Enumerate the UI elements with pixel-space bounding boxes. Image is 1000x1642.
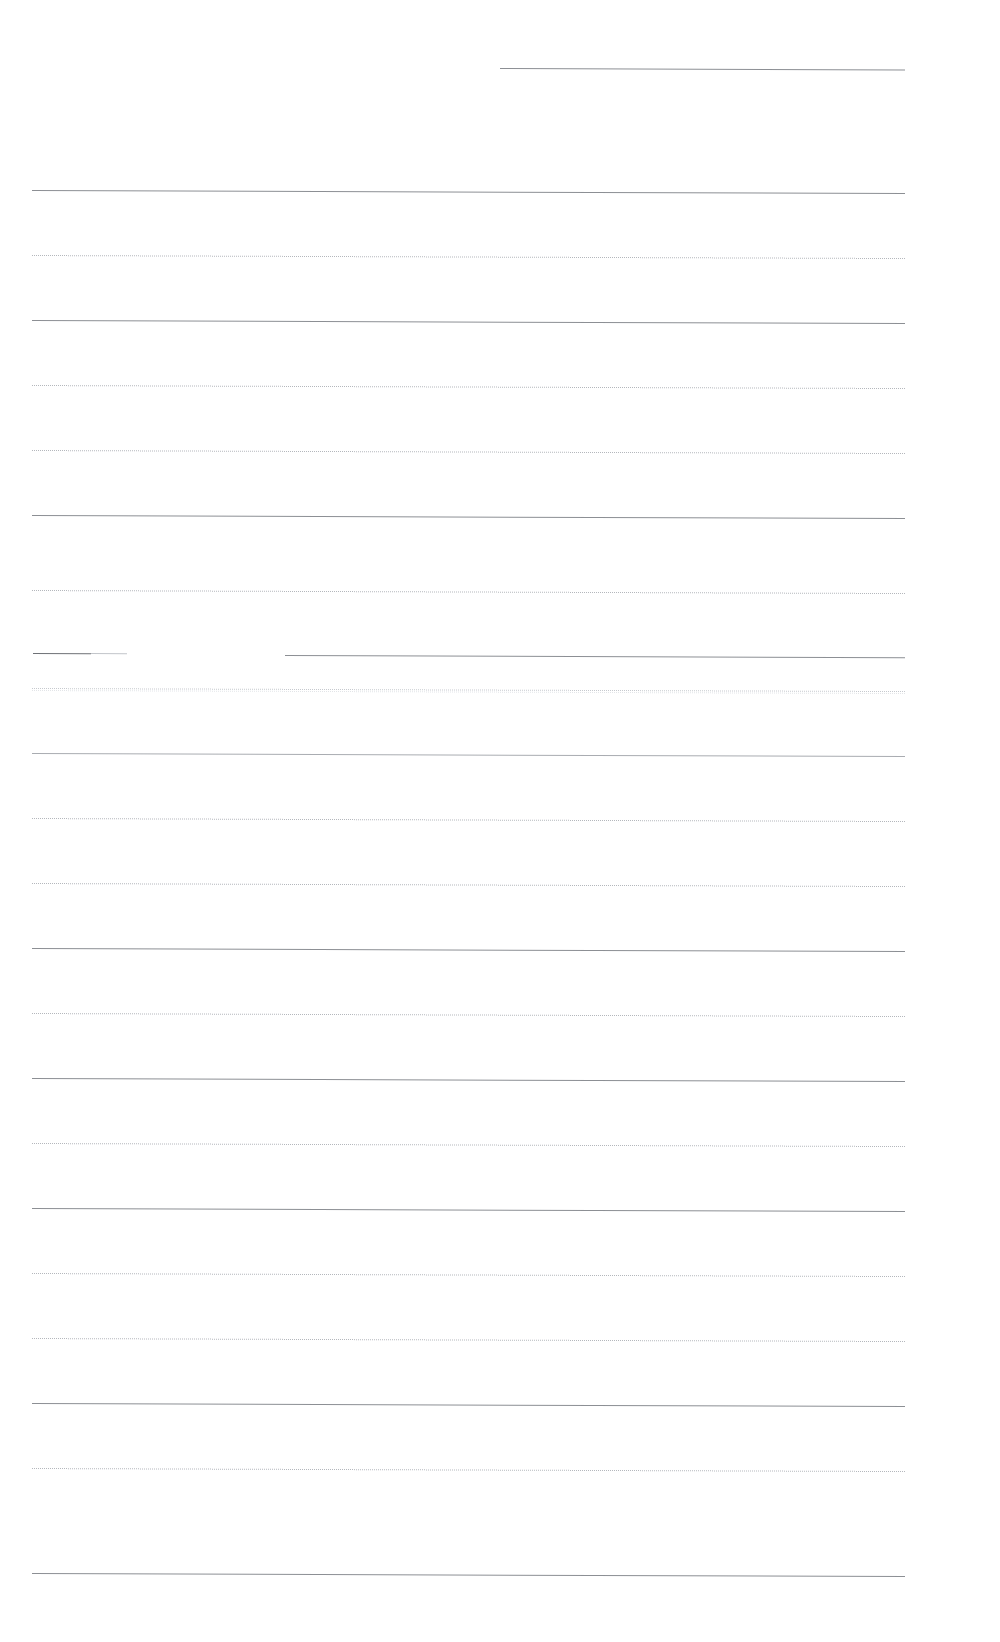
- rule-line-22: [32, 1468, 905, 1472]
- rule-line-9-stub-fade: [91, 653, 127, 654]
- rule-line-5: [32, 385, 905, 389]
- rule-line-20: [32, 1338, 905, 1342]
- rule-line-1-partial: [500, 68, 905, 70]
- rule-line-9-stub-dark: [33, 653, 91, 654]
- rule-line-16: [32, 1078, 905, 1082]
- rule-line-19: [32, 1273, 905, 1277]
- rule-line-9-broken-main: [285, 655, 905, 658]
- rule-line-6: [32, 450, 905, 454]
- rule-line-8: [32, 590, 905, 594]
- rule-line-15: [32, 1013, 905, 1017]
- scanned-page: [0, 0, 1000, 1642]
- rule-line-7: [32, 515, 905, 519]
- rule-line-23: [32, 1573, 905, 1577]
- rule-line-17: [32, 1143, 905, 1147]
- rule-line-11: [32, 753, 905, 757]
- rule-line-18: [32, 1208, 905, 1212]
- rule-line-14: [32, 948, 905, 952]
- rule-line-2: [32, 190, 905, 194]
- rule-line-3: [32, 255, 905, 259]
- rule-line-4: [32, 320, 905, 324]
- rule-line-12: [32, 818, 905, 822]
- rule-line-10: [32, 688, 905, 692]
- rule-line-21: [32, 1403, 905, 1407]
- rule-line-13: [32, 883, 905, 887]
